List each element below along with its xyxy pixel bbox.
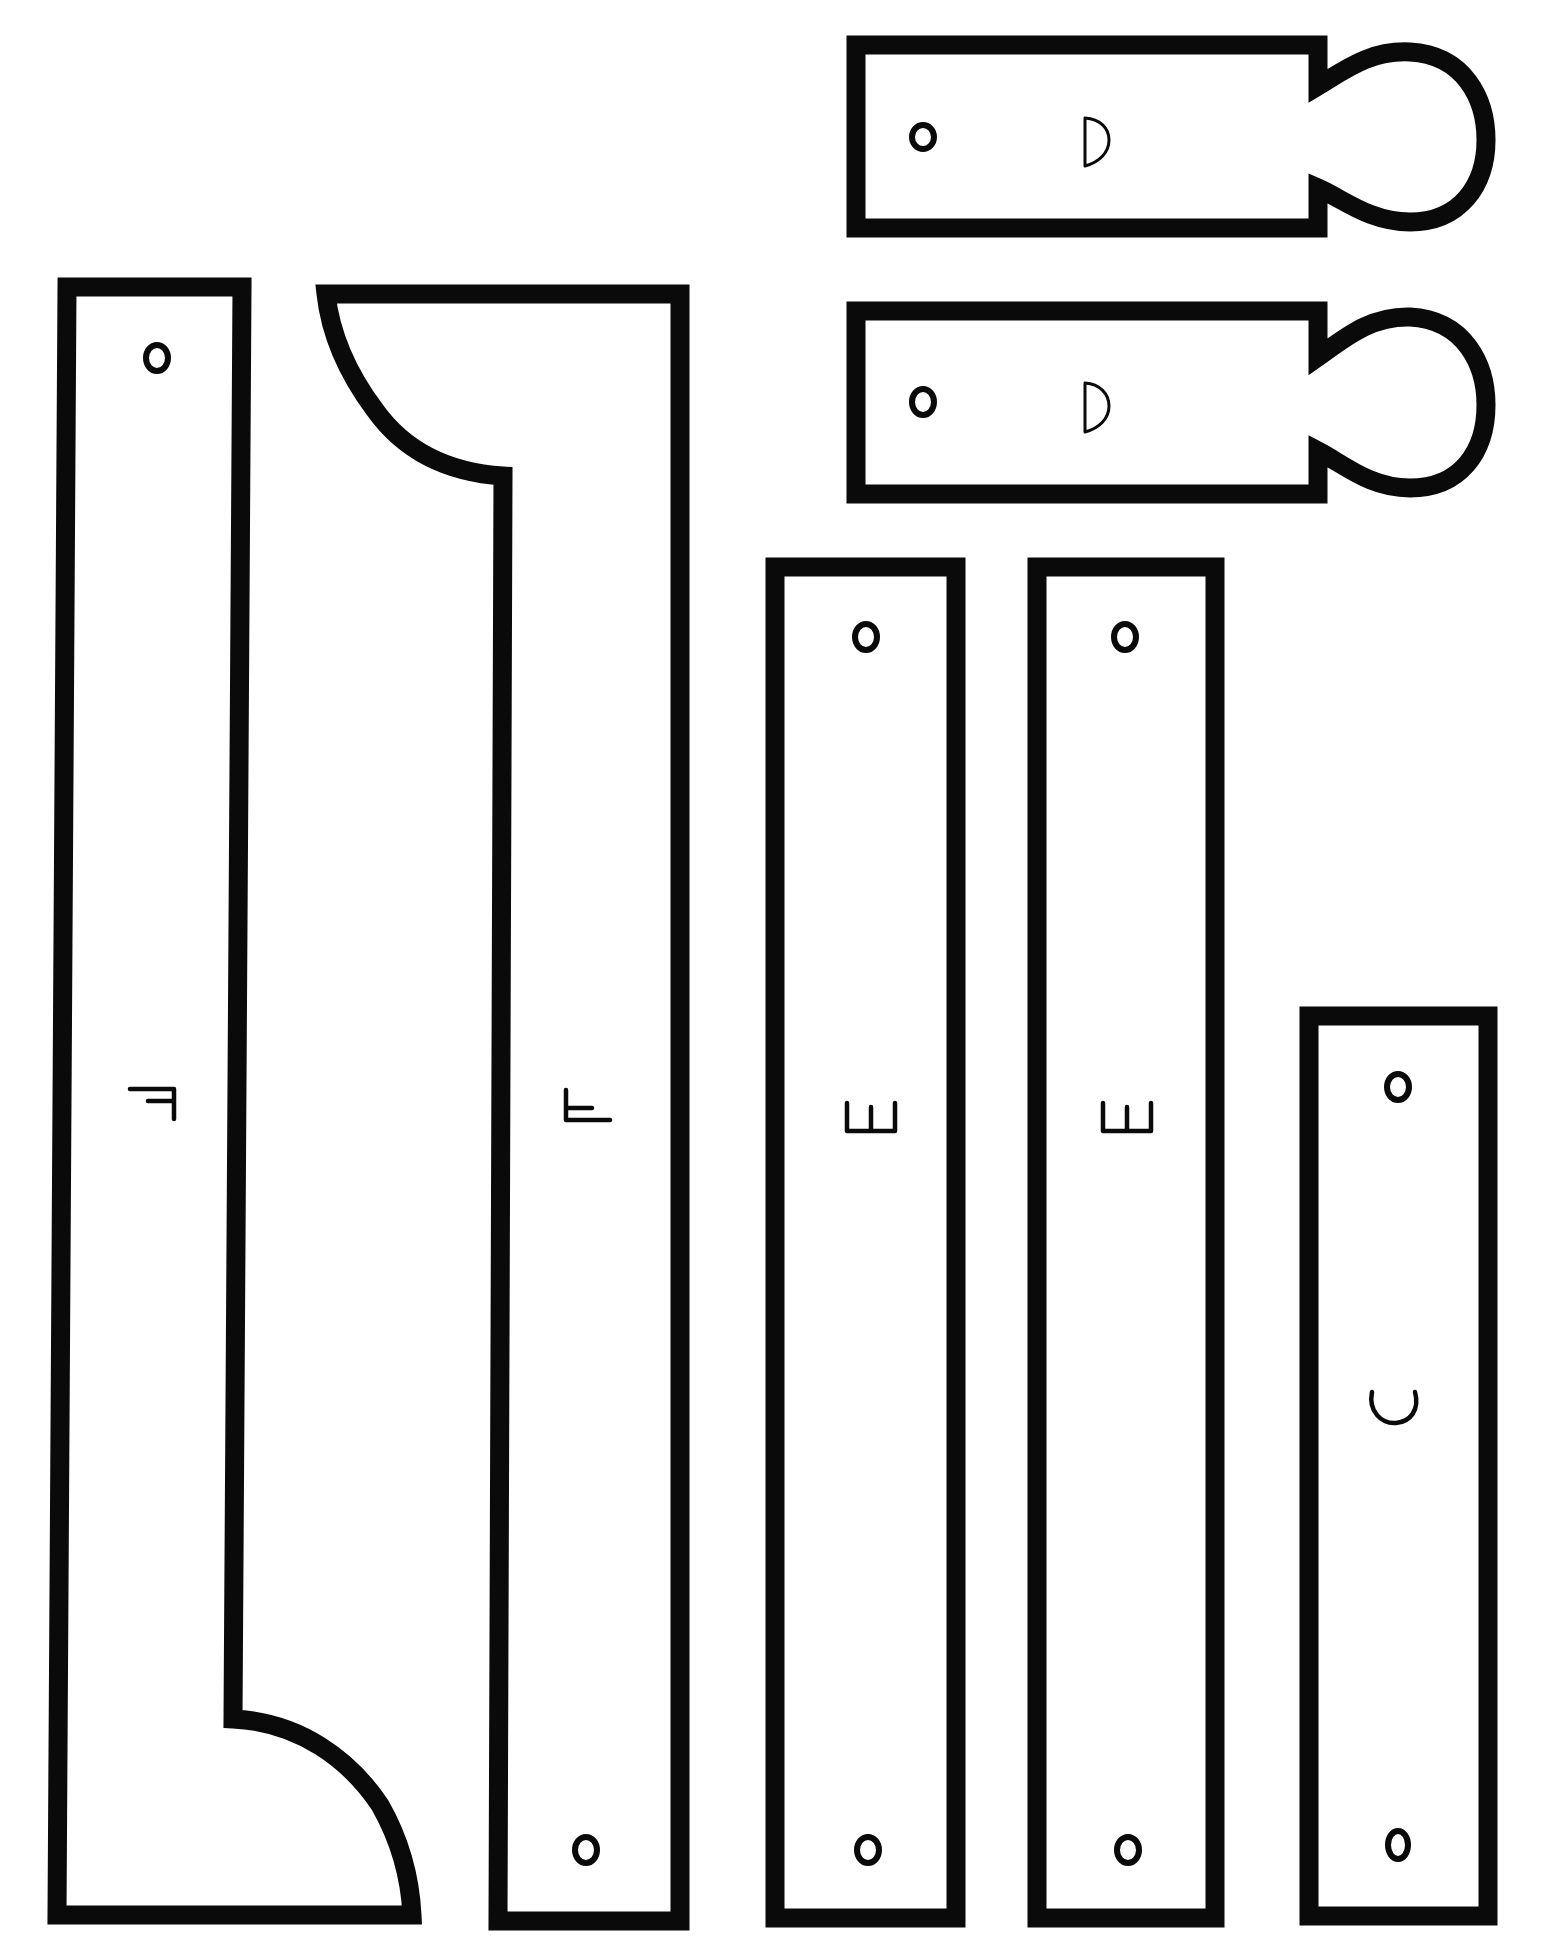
piece-d-2 (856, 311, 1486, 494)
piece-f-left-outline (57, 287, 412, 1915)
piece-e-2-outline (1037, 567, 1215, 1918)
template-sheet: Cut-out template pieces F F E E C D D (0, 0, 1544, 1953)
piece-d-1 (856, 45, 1486, 228)
piece-d-2-outline (856, 311, 1486, 494)
piece-f-left (57, 287, 412, 1915)
piece-e-1-outline (775, 567, 956, 1918)
piece-c-outline (1309, 1016, 1488, 1916)
piece-c (1309, 1016, 1488, 1916)
piece-e-1 (775, 567, 956, 1918)
piece-f-right-outline (326, 294, 680, 1921)
piece-d-1-outline (856, 45, 1486, 228)
piece-e-2 (1037, 567, 1215, 1918)
piece-f-right (326, 294, 680, 1921)
